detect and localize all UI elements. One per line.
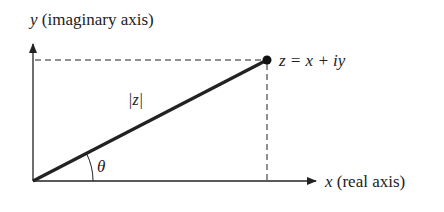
- angle-arc: [87, 154, 94, 182]
- magnitude-label: |z|: [128, 91, 143, 109]
- point-label: z = x + iy: [278, 51, 346, 70]
- point-z: [263, 56, 272, 65]
- angle-label: θ: [97, 157, 105, 176]
- vector-z: [33, 60, 267, 181]
- y-axis-label: y (imaginary axis): [28, 10, 154, 29]
- complex-plane-diagram: y (imaginary axis) x (real axis) z = x +…: [0, 0, 444, 212]
- x-axis-label: x (real axis): [324, 172, 405, 191]
